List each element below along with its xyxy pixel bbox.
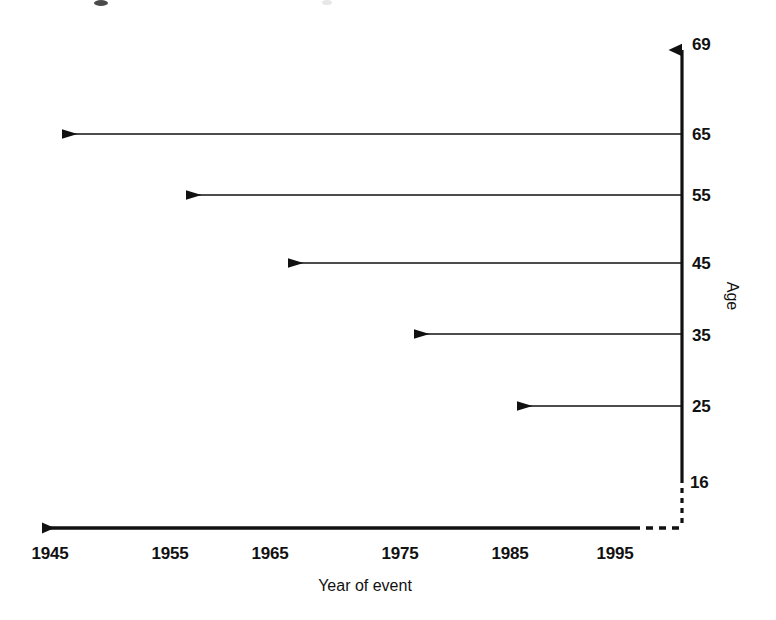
scan-artifact-faint — [322, 0, 332, 5]
y-tick-label-16: 16 — [690, 474, 709, 491]
y-axis-title: Age — [724, 282, 740, 310]
y-tick-label-69: 69 — [692, 36, 711, 53]
y-tick-label-55: 55 — [692, 187, 711, 204]
x-tick-label-1995: 1995 — [596, 545, 633, 562]
y-tick-label-25: 25 — [692, 398, 711, 415]
x-axis-title: Year of event — [318, 578, 412, 594]
chart-canvas — [0, 0, 776, 620]
x-tick-label-1955: 1955 — [151, 545, 188, 562]
x-tick-label-1945: 1945 — [31, 545, 68, 562]
y-tick-label-45: 45 — [692, 255, 711, 272]
y-tick-label-65: 65 — [692, 126, 711, 143]
scan-artifact-mark — [94, 0, 108, 6]
x-tick-label-1985: 1985 — [491, 545, 528, 562]
x-tick-label-1975: 1975 — [381, 545, 418, 562]
lexis-diagram-chart: 69 65 55 45 35 25 16 1945 1955 1965 1975… — [0, 0, 776, 620]
x-tick-label-1965: 1965 — [251, 545, 288, 562]
y-tick-label-35: 35 — [692, 327, 711, 344]
